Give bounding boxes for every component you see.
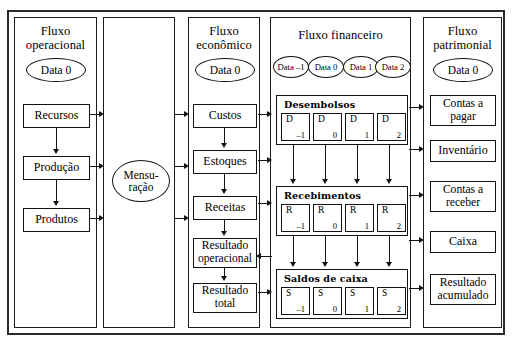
- box-contas-a-pagar-line1: Contas a: [443, 98, 483, 111]
- arrowhead-to-caixa: [419, 237, 424, 243]
- cell-saldo-4-index: 2: [397, 304, 401, 314]
- cell-recebimento-1-letter: R: [286, 205, 292, 215]
- arrowhead-receitas-to-recebimentos: [267, 200, 272, 206]
- date-ellipse-financeiro-1: Data –1: [273, 56, 309, 78]
- ellipse-mensuracao-line1: Mensu-: [123, 169, 158, 182]
- arrowhead-estoques-receitas: [221, 189, 227, 194]
- column-title-operacional-line2: operacional: [15, 38, 96, 52]
- arrowhead-recursos-producao: [53, 149, 59, 154]
- arrowhead-mensuracao-to-receitas: [184, 215, 189, 221]
- cell-desembolso-1-index: –1: [296, 130, 305, 140]
- column-title-economico-line2: econômico: [189, 38, 259, 52]
- group-desembolsos: Desembolsos D –1 D 0 D 1 D 2: [276, 95, 408, 145]
- column-title-patrimonial-line2: patrimonial: [424, 38, 501, 52]
- box-resultado-acumulado[interactable]: Resultado acumulado: [430, 274, 496, 305]
- cell-recebimento-2[interactable]: R 0: [313, 204, 342, 232]
- cell-desembolso-3[interactable]: D 1: [345, 113, 374, 141]
- group-recebimentos: Recebimentos R –1 R 0 R 1 R 2: [276, 186, 408, 236]
- connector-r1-s1: [293, 236, 294, 263]
- box-resultado-total-line2: total: [215, 298, 236, 311]
- cell-saldo-3-index: 1: [365, 304, 369, 314]
- box-contas-a-receber-line2: receber: [446, 197, 480, 210]
- cell-desembolso-4-index: 2: [397, 130, 401, 140]
- arrowhead-resultado-operacional-total: [221, 276, 227, 281]
- arrowhead-r1-s1: [290, 262, 296, 267]
- connector-r2-s2: [325, 236, 326, 263]
- box-produtos[interactable]: Produtos: [23, 208, 90, 232]
- box-contas-a-receber[interactable]: Contas a receber: [430, 181, 496, 212]
- column-fluxo-financeiro: Fluxo financeiro Data –1 Data 0 Data 1 D…: [270, 17, 411, 328]
- column-title-patrimonial-line1: Fluxo: [424, 24, 501, 38]
- group-title-saldos-de-caixa: Saldos de caixa: [284, 273, 368, 284]
- box-resultado-total[interactable]: Resultado total: [193, 283, 257, 313]
- box-contas-a-pagar[interactable]: Contas a pagar: [430, 95, 496, 126]
- box-recursos[interactable]: Recursos: [23, 104, 90, 128]
- box-estoques[interactable]: Estoques: [193, 150, 257, 174]
- box-resultado-acumulado-line2: acumulado: [438, 290, 489, 303]
- diagram-canvas: Fluxo operacional Data 0 Recursos Produç…: [0, 0, 516, 355]
- connector-custos-estoques: [224, 128, 225, 144]
- ellipse-mensuracao[interactable]: Mensu- ração: [112, 160, 170, 202]
- cell-recebimento-4[interactable]: R 2: [377, 204, 406, 232]
- arrowhead-d4-r4: [386, 179, 392, 184]
- box-resultado-operacional[interactable]: Resultado operacional: [193, 238, 257, 268]
- cell-recebimento-1[interactable]: R –1: [281, 204, 310, 232]
- cell-saldo-1-letter: S: [286, 288, 291, 298]
- cell-saldo-2-letter: S: [318, 288, 323, 298]
- arrowhead-r3-s3: [354, 262, 360, 267]
- cell-recebimento-3-index: 1: [365, 221, 369, 231]
- group-title-desembolsos: Desembolsos: [284, 99, 355, 110]
- cell-desembolso-2[interactable]: D 0: [313, 113, 342, 141]
- column-fluxo-patrimonial: Fluxo patrimonial Data 0 Contas a pagar …: [423, 17, 502, 328]
- cell-recebimento-1-index: –1: [296, 221, 305, 231]
- cell-saldo-2-index: 0: [333, 304, 337, 314]
- connector-recursos-producao: [56, 128, 57, 150]
- box-custos[interactable]: Custos: [193, 104, 257, 128]
- arrowhead-mensuracao-to-estoques: [184, 163, 189, 169]
- cell-desembolso-2-letter: D: [318, 114, 325, 124]
- cell-saldo-3[interactable]: S 1: [345, 287, 374, 315]
- date-ellipse-economico: Data 0: [195, 58, 255, 82]
- arrowhead-d3-r3: [354, 179, 360, 184]
- cell-desembolso-1-letter: D: [286, 114, 293, 124]
- cell-desembolso-2-index: 0: [333, 130, 337, 140]
- arrowhead-d1-r1: [290, 179, 296, 184]
- date-ellipse-patrimonial: Data 0: [433, 58, 493, 82]
- cell-desembolso-4-letter: D: [382, 114, 389, 124]
- cell-saldo-2[interactable]: S 0: [313, 287, 342, 315]
- cell-saldo-1-index: –1: [296, 304, 305, 314]
- box-resultado-operacional-line2: operacional: [198, 253, 252, 266]
- cell-saldo-4[interactable]: S 2: [377, 287, 406, 315]
- cell-desembolso-1[interactable]: D –1: [281, 113, 310, 141]
- cell-recebimento-4-index: 2: [397, 221, 401, 231]
- date-ellipse-operacional: Data 0: [26, 58, 86, 82]
- connector-d1-r1: [293, 145, 294, 180]
- cell-recebimento-2-index: 0: [333, 221, 337, 231]
- cell-desembolso-3-letter: D: [350, 114, 357, 124]
- box-inventario[interactable]: Inventário: [430, 140, 496, 162]
- cell-saldo-1[interactable]: S –1: [281, 287, 310, 315]
- date-ellipse-financeiro-4: Data 2: [375, 56, 411, 78]
- cell-recebimento-2-letter: R: [318, 205, 324, 215]
- arrowhead-produtos-to-mensuracao: [99, 215, 104, 221]
- connector-r4-s4: [389, 236, 390, 263]
- connector-r3-s3: [357, 236, 358, 263]
- box-contas-a-pagar-line2: pagar: [450, 111, 476, 124]
- column-title-financeiro: Fluxo financeiro: [271, 28, 410, 42]
- arrowhead-to-contas-a-pagar: [419, 104, 424, 110]
- box-resultado-acumulado-line1: Resultado: [440, 277, 486, 290]
- box-receitas[interactable]: Receitas: [193, 196, 257, 220]
- date-ellipse-financeiro-2: Data 0: [308, 56, 344, 78]
- ellipse-mensuracao-line2: ração: [129, 181, 154, 194]
- box-producao[interactable]: Produção: [23, 156, 90, 180]
- column-title-operacional-line1: Fluxo: [15, 24, 96, 38]
- column-fluxo-economico: Fluxo econômico Data 0 Custos Estoques R…: [188, 17, 260, 328]
- cell-desembolso-4[interactable]: D 2: [377, 113, 406, 141]
- box-caixa[interactable]: Caixa: [430, 231, 496, 253]
- cell-recebimento-3[interactable]: R 1: [345, 204, 374, 232]
- connector-d3-r3: [357, 145, 358, 180]
- connector-estoques-receitas: [224, 174, 225, 190]
- group-saldos-de-caixa: Saldos de caixa S –1 S 0 S 1 S 2: [276, 269, 408, 319]
- arrowhead-r4-s4: [386, 262, 392, 267]
- cell-recebimento-4-letter: R: [382, 205, 388, 215]
